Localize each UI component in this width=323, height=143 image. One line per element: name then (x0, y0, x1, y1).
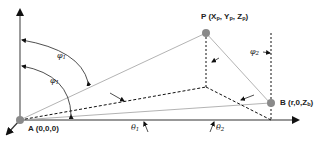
point-P-coords: (Xp, Yp, Zp) (208, 12, 248, 21)
phi2-arrow-left (212, 58, 219, 62)
theta2-arrow (210, 122, 214, 132)
phi1-outer-label: φ1 (57, 52, 66, 61)
theta1-label: θ1 (131, 124, 139, 133)
p-c2: , Z (233, 12, 242, 21)
p-c1: , Y (220, 12, 230, 21)
point-A-name: A (28, 124, 33, 133)
point-P-marker (202, 29, 210, 37)
point-A-label: A (0,0,0) (28, 125, 59, 133)
b-c1: ) (311, 98, 314, 107)
phi1-inner-label: φ1 (50, 77, 59, 86)
b-c0: (r,0,Z (288, 98, 307, 107)
phi2-sub: 2 (256, 50, 260, 56)
point-B-marker (267, 99, 275, 107)
phi1i-sub: 1 (56, 79, 60, 85)
dashed-A-to-P-projection (20, 87, 206, 120)
point-B-name: B (280, 98, 286, 107)
pointer-arrow-near-B (241, 95, 254, 100)
theta1-arrow (144, 122, 148, 132)
p-c3: ) (246, 12, 249, 21)
pointer-arrow-dashed (110, 93, 124, 101)
phi1o-sub: 1 (63, 54, 67, 60)
phi2-label: φ2 (250, 48, 259, 57)
geometry-diagram (0, 0, 323, 143)
point-B-coords: (r,0,Zb) (288, 98, 313, 107)
point-P-label: P (Xp, Yp, Zp) (201, 13, 248, 22)
point-A-marker (16, 116, 24, 124)
point-A-coords: (0,0,0) (36, 124, 59, 133)
theta2-label: θ2 (216, 124, 224, 133)
theta1-sub: 1 (136, 126, 140, 132)
theta2-sub: 2 (221, 126, 225, 132)
phi2-arrow-right (263, 52, 270, 53)
line-A-to-B (20, 103, 270, 120)
point-B-label: B (r,0,Zb) (280, 99, 313, 108)
point-P-name: P (201, 12, 206, 21)
line-P-to-B (206, 33, 270, 103)
